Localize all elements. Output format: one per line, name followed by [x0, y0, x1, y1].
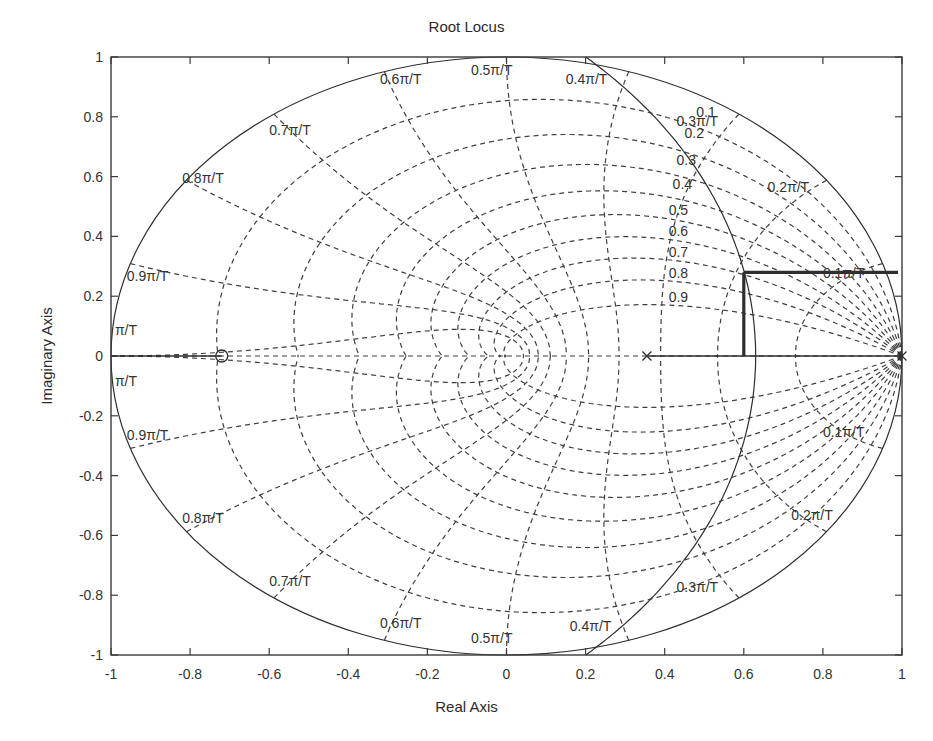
damping-curve-0.3: [352, 165, 902, 357]
x-tick-label: 0.6: [734, 666, 754, 682]
y-tick-label: 1: [95, 49, 103, 65]
x-tick-label: -0.6: [257, 666, 281, 682]
tick-labels: -1-0.8-0.6-0.4-0.200.20.40.60.8110.80.60…: [79, 49, 906, 682]
frequency-curve-5: [507, 356, 589, 655]
frequency-label: 0.7π/T: [269, 573, 311, 589]
frequency-label: 0.4π/T: [570, 618, 612, 634]
y-tick-label: 0.2: [84, 288, 104, 304]
frequency-label: 0.1π/T: [823, 424, 865, 440]
damping-label: 0.9: [669, 289, 689, 305]
damping-label: 0.8: [669, 265, 689, 281]
frequency-curve-3: [661, 356, 739, 598]
damping-label: 0.4: [673, 176, 693, 192]
damping-curve-0.6: [458, 356, 902, 475]
x-tick-label: 1: [898, 666, 906, 682]
y-tick-label: 0.4: [84, 228, 104, 244]
damping-label: 0.5: [669, 202, 689, 218]
damping-curve-0.9: [504, 356, 902, 407]
damping-curve-0.1: [217, 356, 902, 613]
frequency-curve-8: [187, 356, 539, 532]
damping-curve-0.8: [494, 356, 902, 432]
damping-curve-0.2: [294, 356, 902, 578]
frequency-curve-4: [604, 72, 629, 356]
damping-label: 0.6: [669, 223, 689, 239]
frequency-curve-7: [274, 114, 550, 356]
frequency-curve-6: [384, 356, 566, 640]
x-tick-label: 0.2: [576, 666, 596, 682]
damping-label: 0.7: [669, 244, 689, 260]
frequency-label: 0.5π/T: [471, 630, 513, 646]
frequency-label: 0.4π/T: [566, 71, 608, 87]
frequency-curve-6: [384, 72, 566, 356]
y-tick-label: -0.6: [79, 527, 103, 543]
x-tick-label: 0.8: [813, 666, 833, 682]
frequency-curve-10: [111, 356, 524, 383]
x-tick-label: 0.4: [655, 666, 675, 682]
frequency-label: 0.8π/T: [182, 170, 224, 186]
frequency-label: 0.3π/T: [677, 579, 719, 595]
y-tick-label: -0.8: [79, 587, 103, 603]
root-locus-figure: Root Locus Imaginary Axis Real Axis 0.10…: [0, 0, 933, 741]
damping-curve-0.2: [294, 135, 902, 357]
frequency-curve-8: [187, 180, 539, 356]
frequency-label: π/T: [115, 322, 138, 338]
damping-curve-0.1: [217, 99, 902, 356]
plot-area: 0.10.20.30.40.50.60.70.80.90.6π/T0.5π/T0…: [0, 0, 933, 741]
x-tick-label: -0.4: [336, 666, 360, 682]
frequency-curve-5: [507, 57, 589, 356]
y-tick-label: 0: [95, 348, 103, 364]
frequency-label: 0.8π/T: [182, 510, 224, 526]
frequency-label: 0.7π/T: [269, 122, 311, 138]
damping-curve-0.8: [494, 280, 902, 356]
x-tick-label: -0.8: [178, 666, 202, 682]
frequency-label: π/T: [115, 373, 138, 389]
y-tick-label: 0.6: [84, 169, 104, 185]
frequency-label: 0.3π/T: [677, 113, 719, 129]
x-tick-label: -0.2: [415, 666, 439, 682]
frequency-label: 0.2π/T: [791, 507, 833, 523]
frequency-label: 0.9π/T: [127, 427, 169, 443]
x-tick-label: -1: [105, 666, 118, 682]
frequency-label: 0.9π/T: [127, 268, 169, 284]
frequency-label: 0.6π/T: [380, 71, 422, 87]
y-tick-label: -0.4: [79, 468, 103, 484]
damping-label: 0.3: [677, 152, 697, 168]
y-tick-label: -1: [91, 647, 104, 663]
frequency-curve-7: [274, 356, 550, 598]
frequency-label: 0.2π/T: [768, 179, 810, 195]
x-tick-label: 0: [503, 666, 511, 682]
frequency-label: 0.1π/T: [823, 265, 865, 281]
frequency-curve-10: [111, 329, 524, 356]
frequency-curve-4: [604, 356, 629, 640]
damping-curve-0.5: [431, 215, 902, 357]
frequency-label: 0.6π/T: [380, 615, 422, 631]
damping-curve-0.9: [504, 305, 902, 356]
y-tick-label: 0.8: [84, 109, 104, 125]
y-tick-label: -0.2: [79, 408, 103, 424]
frequency-label: 0.5π/T: [471, 62, 513, 78]
